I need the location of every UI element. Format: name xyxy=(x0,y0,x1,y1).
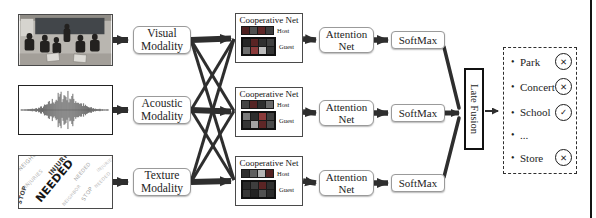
bullet-icon: • xyxy=(511,107,520,118)
cooperative-net-box-acoustic: Cooperative Net Host Guest xyxy=(235,87,303,137)
list-item: • School ✓ xyxy=(511,104,572,121)
word-cloud-word: NEIGHBOR xyxy=(61,183,82,207)
attention-net-box-texture: Attention Net xyxy=(319,170,374,196)
list-item: • Concert ✕ xyxy=(511,78,572,95)
classroom-photo-illustration xyxy=(19,15,112,65)
acoustic-modality-label-line1: Acoustic xyxy=(142,97,183,110)
guest-feature-cells xyxy=(241,37,276,56)
output-class-list: • Park ✕ • Concert ✕ • School ✓ • ... • … xyxy=(503,47,577,174)
host-feature-cells xyxy=(241,169,274,178)
guest-label: Guest xyxy=(279,117,294,124)
list-item: • Park ✕ xyxy=(511,53,572,70)
acoustic-modality-box: Acoustic Modality xyxy=(133,96,191,124)
attention-net-label-line1: Attention xyxy=(326,28,368,40)
texture-input-image: NEEDEDINJURIESSTOPNEIGHBORNEEDEDINJURIES… xyxy=(18,155,113,209)
guest-feature-row: Guest xyxy=(241,37,300,56)
texture-modality-label-line1: Texture xyxy=(145,169,180,182)
cross-mark-icon: ✕ xyxy=(555,78,572,95)
word-cloud-word: NEEDED xyxy=(93,171,111,189)
bullet-icon: • xyxy=(511,81,520,92)
audio-waveform-illustration xyxy=(19,86,112,134)
softmax-label: SoftMax xyxy=(399,107,438,119)
output-label-park: Park xyxy=(520,56,555,68)
host-label: Host xyxy=(277,27,289,34)
cross-mark-icon: ✕ xyxy=(555,53,572,70)
softmax-box-acoustic: SoftMax xyxy=(391,104,445,122)
check-mark-icon: ✓ xyxy=(555,104,572,121)
softmax-box-texture: SoftMax xyxy=(391,174,445,192)
guest-label: Guest xyxy=(279,186,294,193)
texture-modality-label-line2: Modality xyxy=(141,182,183,195)
texture-modality-box: Texture Modality xyxy=(133,168,191,196)
guest-feature-row: Guest xyxy=(241,111,300,130)
host-label: Host xyxy=(277,101,289,108)
visual-input-image xyxy=(18,14,113,66)
cooperative-net-box-visual: Cooperative Net Host Guest xyxy=(235,13,303,63)
cooperative-net-box-texture: Cooperative Net Host Guest xyxy=(235,156,303,206)
output-label-ellipsis: ... xyxy=(520,129,572,141)
bullet-icon: • xyxy=(511,152,520,163)
attention-net-box-acoustic: Attention Net xyxy=(319,100,374,126)
late-fusion-label: Late Fusion xyxy=(469,84,480,134)
attention-net-label-line2: Net xyxy=(339,40,355,52)
host-feature-cells xyxy=(241,100,274,109)
late-fusion-box: Late Fusion xyxy=(464,68,484,150)
figure-edge-rule xyxy=(590,0,592,218)
word-cloud-word: INJURIES xyxy=(96,155,113,173)
attention-net-label-line2: Net xyxy=(339,113,355,125)
host-feature-cells xyxy=(241,26,274,35)
guest-feature-cells xyxy=(241,111,276,130)
host-feature-row: Host xyxy=(241,26,300,35)
guest-label: Guest xyxy=(279,43,294,50)
cooperative-net-title: Cooperative Net xyxy=(238,89,300,99)
bullet-icon: • xyxy=(511,56,520,67)
host-label: Host xyxy=(277,170,289,177)
acoustic-modality-label-line2: Modality xyxy=(141,110,183,123)
guest-feature-row: Guest xyxy=(241,180,300,199)
host-feature-row: Host xyxy=(241,169,300,178)
visual-modality-label-line1: Visual xyxy=(147,27,176,40)
list-item: • Store ✕ xyxy=(511,149,572,166)
acoustic-input-image xyxy=(18,85,113,135)
list-item: • ... xyxy=(511,129,572,141)
attention-net-box-visual: Attention Net xyxy=(319,27,374,53)
cooperative-net-title: Cooperative Net xyxy=(238,158,300,168)
softmax-label: SoftMax xyxy=(399,34,438,46)
softmax-label: SoftMax xyxy=(399,177,438,189)
visual-modality-box: Visual Modality xyxy=(133,26,191,54)
output-label-store: Store xyxy=(520,152,555,164)
cross-mark-icon: ✕ xyxy=(555,149,572,166)
output-label-school: School xyxy=(520,106,555,118)
architecture-diagram: NEEDEDINJURIESSTOPNEIGHBORNEEDEDINJURIES… xyxy=(0,0,596,218)
cooperative-net-title: Cooperative Net xyxy=(238,15,300,25)
attention-net-label-line1: Attention xyxy=(326,171,368,183)
visual-modality-label-line2: Modality xyxy=(141,40,183,53)
word-cloud-word: STOP xyxy=(80,186,94,202)
attention-net-label-line1: Attention xyxy=(326,101,368,113)
output-label-concert: Concert xyxy=(520,81,555,93)
bullet-icon: • xyxy=(511,129,520,140)
host-feature-row: Host xyxy=(241,100,300,109)
softmax-box-visual: SoftMax xyxy=(391,31,445,49)
attention-net-label-line2: Net xyxy=(339,183,355,195)
guest-feature-cells xyxy=(241,180,276,199)
